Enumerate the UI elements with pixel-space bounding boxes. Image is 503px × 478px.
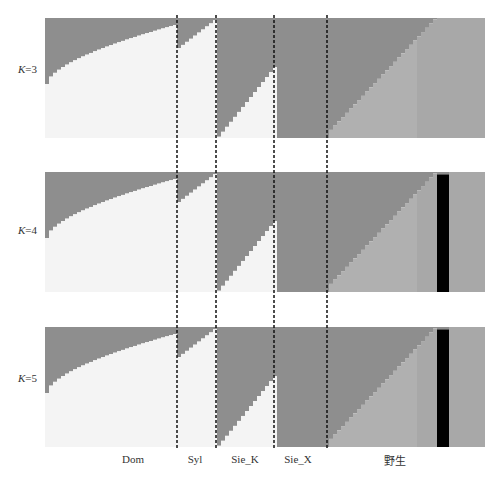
panel-label-k3: K=3 xyxy=(18,63,37,75)
group-label-wild: 野生 xyxy=(375,452,415,468)
group-label-syl: Syl xyxy=(180,453,210,465)
structure-plot xyxy=(0,0,503,478)
group-label-sie-k: Sie_K xyxy=(225,453,265,465)
group-label-dom: Dom xyxy=(113,453,153,465)
panel-label-k4: K=4 xyxy=(18,224,37,236)
panel-label-k5: K=5 xyxy=(18,372,37,384)
group-label-sie-x: Sie_X xyxy=(278,453,318,465)
